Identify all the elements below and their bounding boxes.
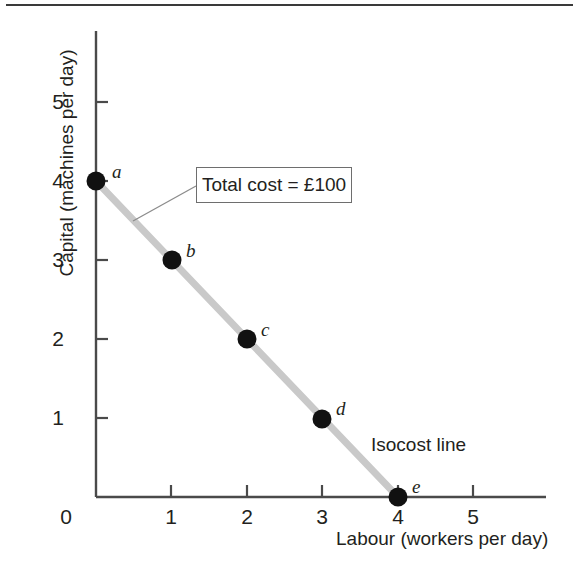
total-cost-callout-text: Total cost = £100 [202,174,346,196]
plot-area [0,0,579,575]
point-label-c: c [261,319,269,341]
x-axis-title: Labour (workers per day) [336,528,548,550]
data-point-c [238,330,257,349]
x-tick-label-5: 5 [459,505,487,529]
y-axis-ticks [96,102,108,418]
x-tick-label-1: 1 [157,505,185,529]
callout-leader-line [133,186,196,221]
data-point-e [389,488,408,507]
point-label-d: d [336,398,346,420]
x-axis-ticks [171,485,473,497]
point-label-a: a [112,161,122,183]
data-point-a [87,172,106,191]
y-tick-label-2: 2 [44,327,72,351]
y-tick-label-1: 1 [44,406,72,430]
x-tick-label-2: 2 [233,505,261,529]
x-tick-label-4: 4 [384,505,412,529]
data-point-d [313,410,332,429]
chart-figure: 5 4 3 2 1 0 1 2 3 4 5 a b c d e Capital … [0,0,579,575]
x-tick-label-0: 0 [52,505,80,529]
point-label-b: b [186,240,196,262]
point-label-e: e [412,476,420,498]
y-axis-title: Capital (machines per day) [56,18,78,308]
total-cost-callout-box: Total cost = £100 [196,167,352,203]
isocost-line-note: Isocost line [371,434,466,456]
data-point-b [163,251,182,270]
x-tick-label-3: 3 [308,505,336,529]
